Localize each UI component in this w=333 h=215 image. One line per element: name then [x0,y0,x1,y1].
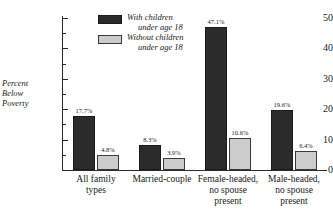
x-axis-category-label-line: present [190,196,266,207]
x-axis-category-label: Married-couple [124,174,200,185]
x-axis-category-label-line: present [256,196,332,207]
y-axis-title-line-1: Percent [2,78,58,88]
x-axis-category-label-line: Married-couple [124,174,200,185]
x-axis-category-label: All familytypes [58,174,134,196]
x-axis-category-label-line: Female-headed, [190,174,266,185]
bar-value-label: 8.3% [133,136,167,143]
legend-label-with-children-line-1: With children [127,12,173,22]
bar-value-label: 19.6% [265,101,299,108]
legend-label-with-children-line-2: under age 18 [127,23,183,33]
bar [97,155,119,170]
x-axis-category-label-line: no spouse [190,185,266,196]
x-axis-category-label: Male-headed,no spousepresent [256,174,332,207]
x-axis-category-label-line: All family [58,174,134,185]
bar-value-label: 3.9% [157,149,191,156]
y-axis-title-line-2: Below [2,88,58,98]
x-axis-category-label-line: types [58,185,134,196]
y-axis-title: Percent Below Poverty [2,78,58,108]
y-tick-major [63,170,68,171]
bar-value-label: 47.1% [199,18,233,25]
bar-chart: Percent Below Poverty 01020304050 17.7%4… [0,0,333,215]
x-axis-category-label: Female-headed,no spousepresent [190,174,266,207]
legend-label-without-children-line-1: Without children [127,32,184,42]
bar [295,151,317,170]
bar-value-label: 10.6% [223,129,257,136]
bar [229,138,251,170]
x-axis-category-label-line: Male-headed, [256,174,332,185]
bar-value-label: 6.4% [289,142,323,149]
legend-label-without-children-line-2: under age 18 [127,43,184,53]
y-axis-title-line-3: Poverty [2,98,58,108]
bar [73,116,95,170]
bar-value-label: 4.8% [91,146,125,153]
legend-label-with-children: With children under age 18 [127,13,183,32]
x-axis-category-label-line: no spouse [256,185,332,196]
bar [163,158,185,170]
legend-label-without-children: Without children under age 18 [127,33,184,52]
legend-swatch-without-children [98,35,122,44]
legend-swatch-with-children [98,15,122,24]
bar [205,27,227,170]
bar-value-label: 17.7% [67,107,101,114]
bar [271,110,293,170]
